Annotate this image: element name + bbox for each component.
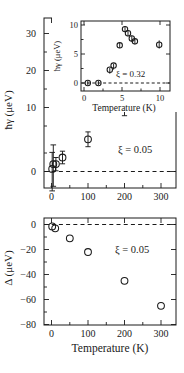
inset-x-tick-0: 0 [82, 93, 86, 103]
bottom-y-tick-m40: −40 [20, 269, 36, 280]
top-y-tick-0: 0 [31, 166, 36, 177]
figure-container: ħγ (μeV) 30 20 10 0 [0, 0, 184, 373]
bottom-annotation-xi: ξ = 0.05 [115, 244, 149, 256]
bottom-data-point [85, 249, 92, 256]
inset-x-tick-10: 10 [156, 93, 165, 103]
bottom-x-tick-0: 0 [49, 328, 54, 339]
bottom-y-ticks [44, 225, 176, 325]
bottom-data-point [158, 302, 165, 309]
top-x-tick-0: 0 [49, 191, 54, 202]
bottom-x-tick-labels: 0 100 200 300 [49, 328, 169, 339]
bottom-y-tick-m60: −60 [20, 294, 36, 305]
inset-y-tick-5: 5 [74, 49, 78, 59]
top-y-tick-20: 20 [26, 65, 36, 76]
top-x-tick-300: 300 [154, 191, 169, 202]
top-y-axis-title: ħγ (μeV) [2, 90, 15, 129]
top-x-tick-labels: 0 100 200 300 [49, 191, 169, 202]
top-x-tick-200: 200 [117, 191, 132, 202]
inset-y-tick-10: 10 [70, 20, 79, 30]
inset-x-axis-title: Temperature (K) [92, 103, 155, 114]
inset-x-tick-5: 5 [120, 93, 124, 103]
top-y-tick-10: 10 [26, 102, 36, 113]
inset-panel-svg: ħγ (μeV) 10 5 0 [52, 16, 178, 112]
bottom-data-point [121, 277, 128, 284]
bottom-panel-svg: Δ (μeV) 0 −20 −40 −60 −80 [0, 206, 184, 373]
top-annotation-xi: ξ = 0.05 [118, 144, 152, 156]
bottom-y-tick-0: 0 [31, 219, 36, 230]
top-x-tick-100: 100 [81, 191, 96, 202]
inset-y-axis-title: ħγ (μeV) [52, 41, 62, 71]
bottom-x-axis-title: Temperature (K) [72, 342, 149, 355]
bottom-y-tick-m20: −20 [20, 244, 36, 255]
bottom-plot-frame [44, 218, 176, 325]
top-data-point [59, 151, 66, 164]
bottom-panel: Δ (μeV) 0 −20 −40 −60 −80 [0, 206, 184, 373]
inset-panel: ħγ (μeV) 10 5 0 [52, 16, 178, 112]
bottom-x-tick-200: 200 [117, 328, 132, 339]
inset-annotation-xi: ξ = 0.32 [116, 69, 145, 79]
top-y-tick-30: 30 [26, 28, 36, 39]
bottom-y-tick-m80: −80 [20, 319, 36, 330]
inset-y-tick-0: 0 [74, 78, 78, 88]
bottom-y-tick-labels: 0 −20 −40 −60 −80 [20, 219, 36, 330]
bottom-data-point [66, 235, 73, 242]
top-y-tick-labels: 30 20 10 0 [26, 28, 36, 177]
bottom-x-tick-100: 100 [81, 328, 96, 339]
bottom-x-tick-300: 300 [154, 328, 169, 339]
top-data-point [49, 152, 56, 191]
top-data-point [85, 132, 92, 147]
bottom-y-axis-title: Δ (μeV) [2, 250, 15, 286]
bottom-x-ticks [52, 218, 162, 325]
bottom-data-series [49, 223, 165, 309]
